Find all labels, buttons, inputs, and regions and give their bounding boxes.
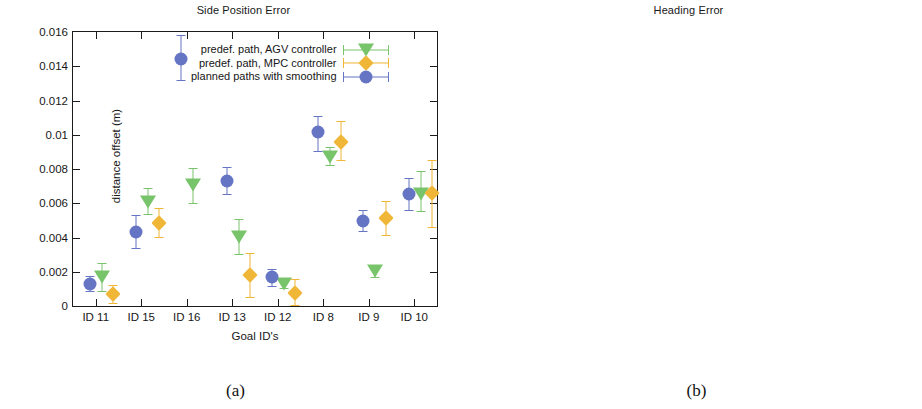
error-cap-lower xyxy=(86,291,95,292)
legend-key-circle xyxy=(343,70,389,83)
error-cap-lower xyxy=(404,210,413,211)
legend-cap-right xyxy=(388,45,389,55)
y-tick-label: 0.01 xyxy=(46,129,68,141)
panel-b-caption: (b) xyxy=(461,381,922,401)
legend-label: planned paths with smoothing xyxy=(191,70,337,84)
error-cap-lower xyxy=(268,286,277,287)
error-cap-upper xyxy=(234,219,243,220)
x-tick xyxy=(278,299,279,306)
plot-area-a: distance offset (m) Goal ID's predef. pa… xyxy=(72,31,438,307)
marker-circle xyxy=(266,271,279,284)
error-cap-upper xyxy=(313,116,322,117)
x-tick xyxy=(141,299,142,306)
y-tick-label: 0.006 xyxy=(39,197,68,209)
error-cap-lower xyxy=(336,160,345,161)
x-tick-label: ID 16 xyxy=(173,311,201,323)
legend-label: predef. path, AGV controller xyxy=(201,43,337,57)
x-tick-mirror xyxy=(323,32,324,39)
panel-b-title: Heading Error xyxy=(461,4,922,16)
error-cap-upper xyxy=(336,121,345,122)
legend-cap-left xyxy=(343,45,344,55)
error-cap-upper xyxy=(382,201,391,202)
y-tick xyxy=(73,203,80,204)
legend-cap-left xyxy=(343,72,344,82)
x-tick-label: ID 13 xyxy=(219,311,247,323)
marker-circle xyxy=(129,226,142,239)
panel-a-title: Side Position Error xyxy=(0,4,461,16)
marker-triangle-down xyxy=(231,230,247,243)
error-cap-lower xyxy=(143,214,152,215)
marker-circle xyxy=(402,187,415,200)
y-tick xyxy=(73,272,80,273)
y-tick-mirror xyxy=(430,101,437,102)
panel-side-position-error: Side Position Error distance offset (m) … xyxy=(0,0,461,409)
error-cap-lower xyxy=(325,165,334,166)
y-tick-label: 0 xyxy=(62,300,68,312)
marker-triangle-down xyxy=(185,179,201,192)
x-tick-mirror xyxy=(278,32,279,39)
x-tick xyxy=(414,299,415,306)
x-tick-mirror xyxy=(414,32,415,39)
x-tick-label: ID 8 xyxy=(313,311,334,323)
error-cap-upper xyxy=(177,35,186,36)
y-axis-title-a: distance offset (m) xyxy=(110,81,122,231)
x-axis-title-a: Goal ID's xyxy=(73,330,437,342)
y-tick-label: 0.004 xyxy=(39,232,68,244)
y-tick xyxy=(73,66,80,67)
error-cap-lower xyxy=(245,297,254,298)
legend-key-triangle-down xyxy=(343,43,389,56)
x-tick xyxy=(369,299,370,306)
error-cap-lower xyxy=(109,303,118,304)
marker-circle xyxy=(220,174,233,187)
y-tick-label: 0.016 xyxy=(39,26,68,38)
y-tick xyxy=(73,101,80,102)
marker-circle xyxy=(84,278,97,291)
y-tick-mirror xyxy=(430,66,437,67)
error-cap-upper xyxy=(143,188,152,189)
x-tick-mirror xyxy=(141,32,142,39)
legend-cap-right xyxy=(388,72,389,82)
marker-diamond xyxy=(151,215,167,231)
error-cap-upper xyxy=(98,263,107,264)
x-tick xyxy=(232,299,233,306)
marker-circle xyxy=(357,214,370,227)
error-cap-upper xyxy=(245,253,254,254)
figure-container: Side Position Error distance offset (m) … xyxy=(0,0,922,409)
marker-triangle-down xyxy=(140,195,156,208)
y-tick xyxy=(73,135,80,136)
x-tick-mirror xyxy=(187,32,188,39)
panel-a-caption: (a) xyxy=(0,381,461,401)
x-tick-label: ID 11 xyxy=(82,311,109,323)
error-cap-lower xyxy=(131,248,140,249)
error-cap-upper xyxy=(131,215,140,216)
legend-marker-diamond xyxy=(358,55,374,71)
legend-row: planned paths with smoothing xyxy=(191,70,389,84)
legend-label: predef. path, MPC controller xyxy=(199,57,337,71)
error-cap-upper xyxy=(325,147,334,148)
error-cap-lower xyxy=(359,231,368,232)
marker-circle xyxy=(311,126,324,139)
y-tick-label: 0.002 xyxy=(39,266,68,278)
legend-key-diamond xyxy=(343,57,389,70)
error-cap-upper xyxy=(154,208,163,209)
legend-row: predef. path, MPC controller xyxy=(191,57,389,71)
error-cap-lower xyxy=(189,203,198,204)
error-cap-upper xyxy=(427,160,436,161)
legend-cap-right xyxy=(388,58,389,68)
marker-diamond xyxy=(333,135,349,151)
y-tick-mirror xyxy=(430,272,437,273)
x-tick-label: ID 15 xyxy=(128,311,156,323)
legend-marker-triangle-down xyxy=(358,43,374,56)
marker-triangle-down xyxy=(322,151,338,164)
y-tick-label: 0.012 xyxy=(39,95,68,107)
error-cap-lower xyxy=(154,237,163,238)
y-tick xyxy=(73,169,80,170)
marker-diamond xyxy=(105,286,121,302)
error-cap-lower xyxy=(177,80,186,81)
error-cap-upper xyxy=(189,168,198,169)
error-cap-lower xyxy=(98,291,107,292)
marker-circle xyxy=(175,52,188,65)
x-tick-mirror xyxy=(369,32,370,39)
y-tick-label: 0.008 xyxy=(39,163,68,175)
y-tick-mirror xyxy=(430,135,437,136)
